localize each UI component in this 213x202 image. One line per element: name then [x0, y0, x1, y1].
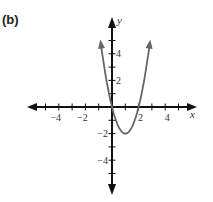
y-axis-label: y	[116, 14, 122, 26]
x-axis-left-arrow-icon	[27, 103, 37, 111]
parabola-chart: −4−22442−2−4xy	[0, 0, 213, 202]
x-tick-label: 2	[138, 112, 143, 123]
y-tick-label: −2	[97, 128, 108, 139]
curve-right-arrow-icon	[146, 40, 153, 49]
x-axis-label: x	[189, 108, 195, 120]
y-tick-label: −4	[97, 155, 108, 166]
x-tick-label: −2	[77, 112, 88, 123]
x-tick-label: −4	[50, 112, 61, 123]
x-tick-label: 4	[165, 112, 170, 123]
y-tick-label: 4	[116, 48, 121, 59]
y-axis-up-arrow-icon	[108, 17, 116, 28]
curve-left-arrow-icon	[98, 40, 105, 49]
y-tick-label: 2	[116, 75, 121, 86]
y-axis-down-arrow-icon	[108, 184, 116, 195]
